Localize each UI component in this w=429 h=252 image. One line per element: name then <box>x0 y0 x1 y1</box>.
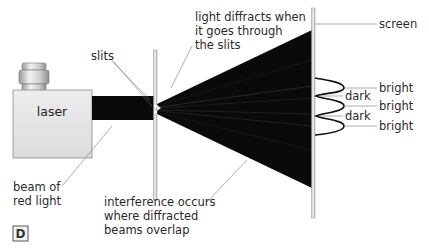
interference-label-line3: beams overlap <box>104 223 189 237</box>
interference-label-line1: interference occurs <box>104 195 216 209</box>
beam-label-line1: beam of <box>13 180 61 194</box>
laser-body <box>13 90 92 158</box>
figure-badge: D <box>13 226 28 241</box>
laser-cylinder <box>19 70 49 84</box>
dark-label-1: dark <box>345 89 371 103</box>
diffract-label-line2: it goes through <box>195 24 283 38</box>
bright-label-3: bright <box>379 119 414 133</box>
laser-label: laser <box>37 104 68 119</box>
bright-label-2: bright <box>379 99 414 113</box>
diffract-label-line1: light diffracts when <box>195 10 306 24</box>
intensity-pattern-curve <box>315 78 344 135</box>
slit-opening-bottom <box>154 111 157 113</box>
figure-badge-letter: D <box>16 227 26 241</box>
slits-label: slits <box>91 49 114 63</box>
diagram-canvas: laser <box>0 0 429 252</box>
diffract-label-line3: the slits <box>195 38 240 52</box>
slit-plate <box>154 50 158 200</box>
bright-label-1: bright <box>379 81 414 95</box>
screen-label: screen <box>379 17 417 31</box>
slit-opening-top <box>154 105 157 107</box>
laser-cap <box>22 63 46 70</box>
dark-label-2: dark <box>345 109 371 123</box>
screen <box>312 8 316 218</box>
beam-label-line2: red light <box>13 194 61 208</box>
diffraction-fan <box>157 30 312 188</box>
interference-label-line2: where diffracted <box>104 209 198 223</box>
laser-device: laser <box>13 63 92 158</box>
